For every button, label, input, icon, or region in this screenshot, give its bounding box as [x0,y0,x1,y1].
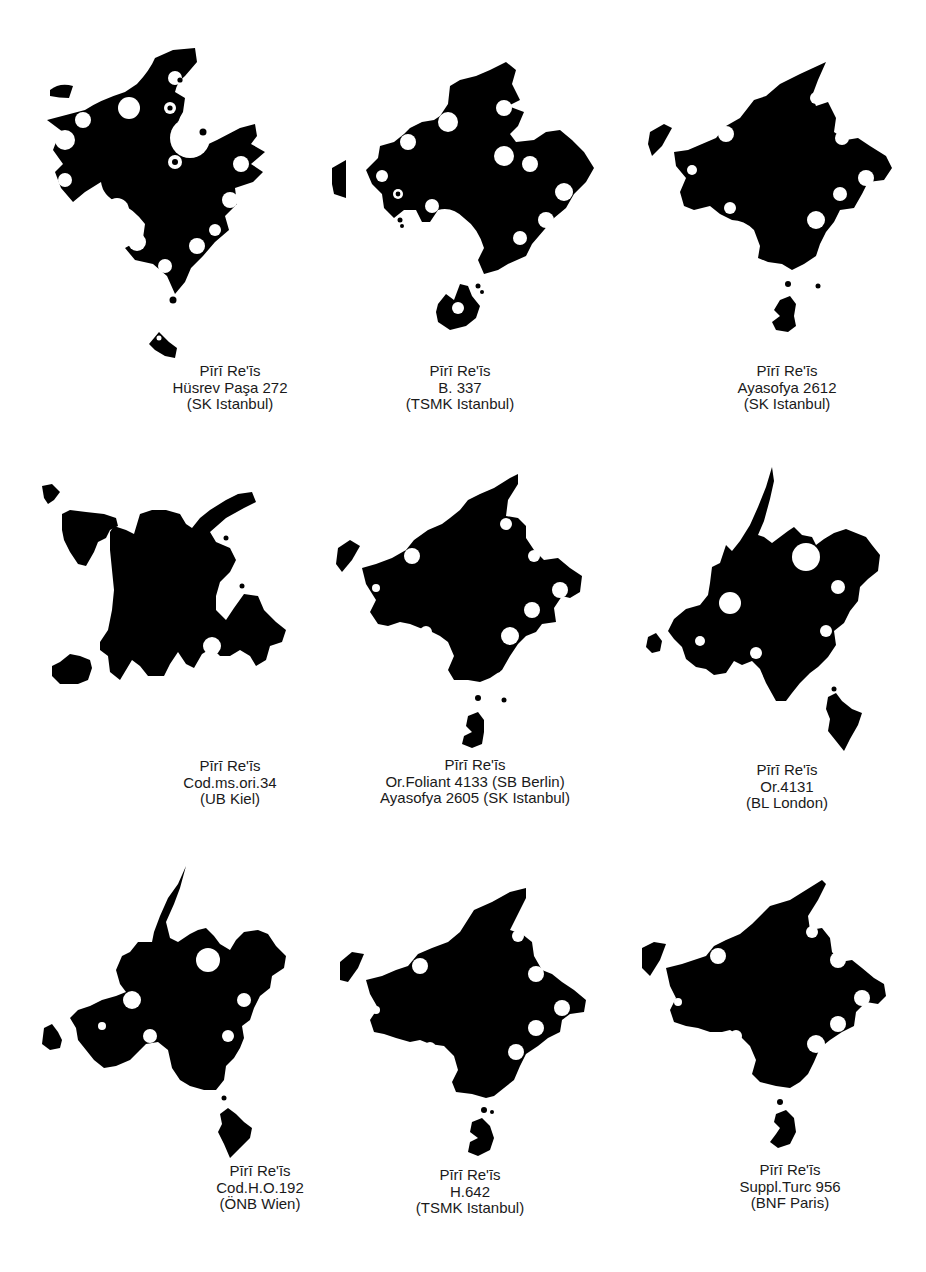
caption-author: Pīrī Re'īs [320,1167,620,1184]
caption-author: Pīrī Re'īs [637,762,926,779]
island-silhouette-icon [25,20,325,360]
caption-author: Pīrī Re'īs [310,363,610,380]
island-silhouette-icon [30,470,310,720]
caption-shelfmark-2: Ayasofya 2605 (SK Istanbul) [325,790,625,807]
island-silhouette-icon [330,870,610,1170]
caption-library: (SK Istanbul) [637,396,926,413]
caption: Pīrī Re'īs B. 337 (TSMK Istanbul) [310,363,610,413]
panel-cod-ms-ori-34: Pīrī Re'īs Cod.ms.ori.34 (UB Kiel) [30,470,330,830]
caption-author: Pīrī Re'īs [325,757,625,774]
panel-ayasofya-2612: Pīrī Re'īs Ayasofya 2612 (SK Istanbul) [640,60,926,440]
caption-shelfmark: B. 337 [310,380,610,397]
panel-or-foliant-4133: Pīrī Re'īs Or.Foliant 4133 (SB Berlin) A… [330,460,630,840]
caption-library: (BNF Paris) [640,1195,926,1212]
caption: Pīrī Re'īs Ayasofya 2612 (SK Istanbul) [637,363,926,413]
caption: Pīrī Re'īs Or.Foliant 4133 (SB Berlin) A… [325,757,625,807]
caption: Pīrī Re'īs Suppl.Turc 956 (BNF Paris) [640,1162,926,1212]
panel-or-4131: Pīrī Re'īs Or.4131 (BL London) [640,455,926,835]
panel-b-337: Pīrī Re'īs B. 337 (TSMK Istanbul) [320,60,620,440]
caption-shelfmark: Suppl.Turc 956 [640,1179,926,1196]
panel-h-642: Pīrī Re'īs H.642 (TSMK Istanbul) [330,870,630,1250]
caption-shelfmark: Or.4131 [637,779,926,796]
caption-library: (TSMK Istanbul) [310,396,610,413]
caption-author: Pīrī Re'īs [640,1162,926,1179]
caption-shelfmark: H.642 [320,1184,620,1201]
island-silhouette-icon [330,460,610,760]
caption-library: (BL London) [637,795,926,812]
caption: Pīrī Re'īs Or.4131 (BL London) [637,762,926,812]
caption-shelfmark: Ayasofya 2612 [637,380,926,397]
panel-husrev-pasa-272: Pīrī Re'īs Hüsrev Paşa 272 (SK Istanbul) [25,20,325,420]
panel-cod-h-o-192: Pīrī Re'īs Cod.H.O.192 (ÖNB Wien) [30,860,330,1240]
island-silhouette-icon [640,60,920,340]
caption-shelfmark-1: Or.Foliant 4133 (SB Berlin) [325,774,625,791]
caption-author: Pīrī Re'īs [637,363,926,380]
island-silhouette-icon [640,455,920,765]
island-silhouette-icon [320,60,620,360]
island-silhouette-icon [30,860,310,1160]
caption-library: (TSMK Istanbul) [320,1200,620,1217]
panel-suppl-turc-956: Pīrī Re'īs Suppl.Turc 956 (BNF Paris) [630,870,926,1250]
island-silhouette-icon [630,870,920,1160]
caption: Pīrī Re'īs H.642 (TSMK Istanbul) [320,1167,620,1217]
